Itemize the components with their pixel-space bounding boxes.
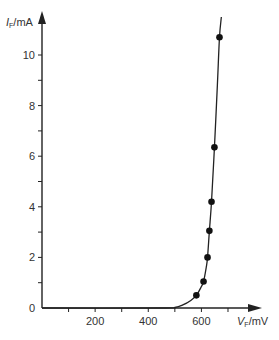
y-tick-label: 0 <box>29 302 35 314</box>
data-point <box>211 144 218 151</box>
x-axis-arrow-icon <box>248 304 262 312</box>
y-axis-arrow-icon <box>38 11 46 24</box>
fitted-curve <box>42 17 221 308</box>
y-tick-label: 10 <box>23 49 35 61</box>
y-tick-label: 6 <box>29 150 35 162</box>
x-label-unit: /mV <box>249 315 269 327</box>
x-axis-label: VF/mV <box>237 315 269 328</box>
x-tick-label: 600 <box>192 315 210 327</box>
data-point <box>208 198 215 205</box>
data-point <box>200 278 207 285</box>
data-point <box>193 292 200 299</box>
y-tick-label: 2 <box>29 251 35 263</box>
x-tick-label: 200 <box>86 315 104 327</box>
data-point <box>206 228 213 235</box>
x-tick-label: 400 <box>139 315 157 327</box>
y-tick-label: 4 <box>29 201 35 213</box>
y-axis-label: IF/mA <box>6 16 34 29</box>
data-point <box>216 34 223 41</box>
diode-iv-chart: 2004006000246810 IF/mA VF/mV <box>0 0 279 340</box>
y-tick-label: 8 <box>29 100 35 112</box>
y-label-unit: /mA <box>13 16 33 28</box>
data-point <box>204 254 211 261</box>
axis-labels: IF/mA VF/mV <box>6 16 269 328</box>
axes: 2004006000246810 <box>23 11 262 327</box>
iv-curve-line <box>42 17 221 308</box>
